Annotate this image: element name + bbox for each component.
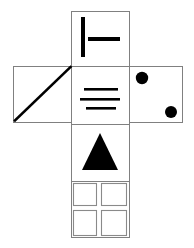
center-cell-outline[interactable] xyxy=(72,67,130,125)
dot-glyph-bottom-right xyxy=(165,106,177,118)
horizontal-bar-glyph xyxy=(88,37,120,41)
dot-glyph-top-left xyxy=(136,72,148,84)
rule-line-glyph-3 xyxy=(86,107,116,110)
quadrant-bottom-left[interactable] xyxy=(74,211,97,236)
cube-net-diagram xyxy=(0,0,194,248)
figure-canvas xyxy=(0,0,194,248)
quadrant-top-right[interactable] xyxy=(102,184,127,206)
rule-line-glyph-2 xyxy=(80,98,120,101)
rule-line-glyph-1 xyxy=(84,88,118,91)
quadrant-top-left[interactable] xyxy=(74,184,97,206)
vertical-bar-glyph xyxy=(81,17,85,57)
cell-outlines xyxy=(14,12,183,238)
quadrant-bottom-right[interactable] xyxy=(102,211,127,236)
